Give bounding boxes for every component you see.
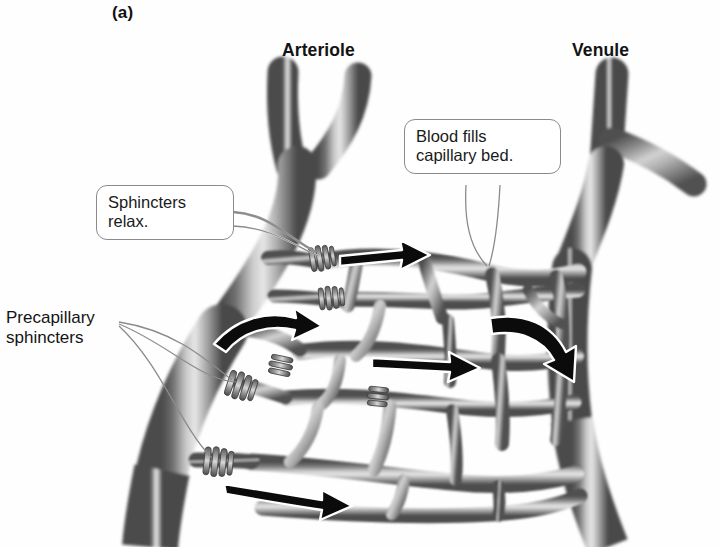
callout-sphincters-relax: Sphincters relax.	[96, 185, 234, 240]
arteriole-heading: Arteriole	[282, 40, 355, 61]
label-precapillary-sphincters: Precapillary sphincters	[6, 308, 95, 348]
venule-vessel	[568, 74, 695, 547]
figure-canvas: (a) Arteriole Venule Sphincters relax. B…	[0, 0, 719, 547]
venule-heading: Venule	[572, 40, 629, 61]
capillary-bed-illustration	[0, 0, 719, 547]
sphincter-ring	[267, 354, 294, 378]
callout-blood-fills-capillary-bed: Blood fills capillary bed.	[404, 119, 561, 174]
sphincter-ring	[366, 386, 390, 407]
panel-label: (a)	[112, 3, 133, 23]
